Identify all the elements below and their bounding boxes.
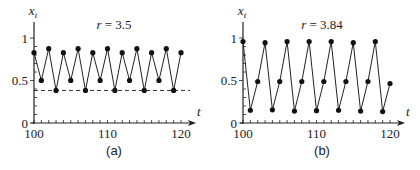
series-line	[34, 49, 181, 91]
data-point	[46, 46, 51, 51]
data-point	[292, 109, 297, 114]
data-point	[336, 108, 341, 113]
y-tick-label: 0.5	[12, 73, 28, 88]
data-point	[68, 78, 73, 83]
data-point	[343, 79, 348, 84]
data-point	[255, 79, 260, 84]
x-axis-label: t	[197, 104, 201, 119]
x-tick-label: 120	[380, 126, 400, 141]
data-point	[262, 40, 267, 45]
data-point	[358, 109, 363, 114]
data-point	[314, 108, 319, 113]
y-tick-label: 1	[22, 31, 29, 46]
data-point	[285, 39, 290, 44]
parameter-annotation: r = 3.84	[301, 17, 343, 32]
data-point	[127, 78, 132, 83]
data-point	[156, 78, 161, 83]
data-point	[83, 88, 88, 93]
x-tick-label: 100	[24, 126, 44, 141]
data-point	[270, 107, 275, 112]
data-point	[112, 88, 117, 93]
chart-panel-a: 00.51100110120xttr = 3.5(a)	[12, 3, 201, 158]
data-point	[277, 79, 282, 84]
data-point	[98, 78, 103, 83]
data-point	[31, 50, 36, 55]
data-point	[142, 88, 147, 93]
data-point	[134, 46, 139, 51]
data-point	[171, 88, 176, 93]
data-point	[149, 50, 154, 55]
data-point	[307, 39, 312, 44]
data-point	[164, 46, 169, 51]
data-point	[248, 108, 253, 113]
data-point	[39, 78, 44, 83]
x-tick-label: 120	[171, 126, 191, 141]
x-tick-label: 110	[98, 126, 117, 141]
data-point	[299, 79, 304, 84]
data-point	[178, 50, 183, 55]
y-tick-label: 1	[231, 31, 238, 46]
data-point	[380, 109, 385, 114]
y-tick-label: 0.5	[221, 73, 237, 88]
x-tick-label: 100	[233, 126, 253, 141]
figure: 00.51100110120xttr = 3.5(a)00.5110011012…	[0, 0, 420, 170]
y-axis-label: xt	[237, 3, 247, 20]
data-point	[105, 46, 110, 51]
data-point	[120, 50, 125, 55]
data-point	[61, 50, 66, 55]
data-point	[90, 50, 95, 55]
data-point	[321, 79, 326, 84]
x-tick-label: 110	[307, 126, 326, 141]
data-point	[373, 39, 378, 44]
panel-label: (a)	[106, 143, 122, 158]
data-point	[76, 46, 81, 51]
y-axis-label: xt	[28, 3, 38, 20]
x-axis-label: t	[406, 104, 410, 119]
data-point	[53, 88, 58, 93]
parameter-annotation: r = 3.5	[96, 17, 131, 32]
data-point	[351, 40, 356, 45]
panel-label: (b)	[314, 143, 330, 158]
chart-panel-b: 00.51100110120xttr = 3.84(b)	[221, 3, 410, 158]
series-line	[243, 41, 390, 111]
data-point	[387, 81, 392, 86]
data-point	[329, 39, 334, 44]
data-point	[240, 39, 245, 44]
data-point	[365, 79, 370, 84]
